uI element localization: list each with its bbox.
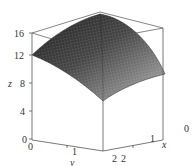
y-tick-2: 2 — [112, 153, 117, 164]
y-tick-1: 1 — [72, 146, 77, 157]
x-tick-2: 2 — [121, 153, 126, 164]
y-tick-0: 0 — [28, 141, 33, 152]
z-axis-label: z — [7, 78, 12, 89]
z-tick-12: 12 — [14, 50, 24, 61]
z-tick-8: 8 — [20, 78, 25, 89]
x-tick-1: 1 — [150, 133, 155, 144]
z-tick-0: 0 — [22, 134, 27, 145]
y-axis-label: y — [69, 157, 75, 166]
surface-plot: 16 12 8 4 0 z 0 1 2 y 2 1 0 x — [0, 0, 192, 166]
z-tick-4: 4 — [20, 106, 25, 117]
x-axis-label: x — [161, 139, 167, 150]
z-tick-16: 16 — [14, 28, 24, 39]
x-tick-0: 0 — [184, 123, 189, 134]
